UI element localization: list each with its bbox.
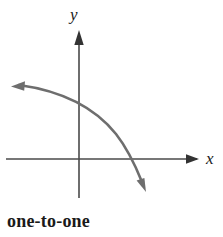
curve-end-arrowhead-icon bbox=[137, 178, 146, 192]
figure-caption: one-to-one bbox=[7, 212, 90, 232]
curve-left-arrowhead-icon bbox=[11, 81, 25, 91]
y-axis-label: y bbox=[70, 6, 78, 23]
one-to-one-function-figure: y x one-to-one bbox=[0, 0, 223, 237]
graph-canvas bbox=[0, 0, 223, 237]
y-axis-arrowhead-icon bbox=[74, 30, 83, 45]
x-axis-arrowhead-icon bbox=[186, 154, 199, 164]
x-axis-label: x bbox=[206, 150, 214, 167]
function-curve bbox=[19, 85, 142, 182]
